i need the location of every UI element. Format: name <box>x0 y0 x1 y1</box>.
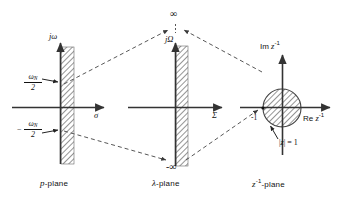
unit-circle-pointer <box>271 126 279 139</box>
z-inverse-imaginary-axis-label: Im z-1 <box>260 40 280 51</box>
z-inverse-minus-one-label: -1 <box>251 113 257 122</box>
p-plane-upper-band-numerator: ωN <box>24 73 42 82</box>
z-inverse-minus-one-point <box>261 106 264 109</box>
mapping-arrow-lambda-to-minus-one <box>186 110 258 160</box>
p-plane-upper-band-pointer <box>42 79 58 82</box>
p-plane-upper-band-denominator: 2 <box>24 84 42 93</box>
lambda-plane-real-axis-label: Σ <box>212 110 217 120</box>
lambda-plane-imaginary-axis-label: jΩ <box>165 34 174 44</box>
p-plane-lower-band-denominator: 2 <box>24 131 42 140</box>
lambda-plane-hatched-region <box>176 46 188 166</box>
p-plane-lower-band-sign: − <box>17 125 22 134</box>
lambda-plane-bottom-infinity-label: -∞ <box>166 161 176 172</box>
p-plane-lower-band-label: ωN 2 <box>24 120 42 139</box>
lambda-plane-group <box>128 24 222 166</box>
lambda-plane-name: λ-plane <box>152 178 180 188</box>
p-plane-upper-band-label: ωN 2 <box>24 73 42 92</box>
mapping-arrow-p-upper-to-infinity <box>64 30 168 84</box>
z-inverse-plane-name: z-1-plane <box>252 178 285 189</box>
complex-plane-mapping-figure: jω σ ωN 2 − ωN 2 p-plane ∞ jΩ Σ -∞ λ-pla… <box>0 0 346 204</box>
p-plane-real-axis-label: σ <box>94 110 98 120</box>
mapping-arrows-group <box>64 30 262 160</box>
p-plane-imaginary-axis-label: jω <box>49 31 57 41</box>
p-plane-lower-band-numerator: ωN <box>24 120 42 129</box>
p-plane-group <box>12 43 104 164</box>
mapping-arrow-p-lower-to-neg-infinity <box>64 131 166 160</box>
p-plane-lower-band-pointer <box>42 130 58 133</box>
p-plane-name: p-plane <box>40 178 68 188</box>
p-plane-hatched-region <box>61 47 74 164</box>
z-inverse-real-axis-label: Re z-1 <box>303 112 324 123</box>
mapping-arrow-z-to-infinity <box>184 30 262 72</box>
lambda-plane-top-infinity-label: ∞ <box>170 8 177 19</box>
unit-circle-magnitude-label: |z| = 1 <box>279 138 298 147</box>
